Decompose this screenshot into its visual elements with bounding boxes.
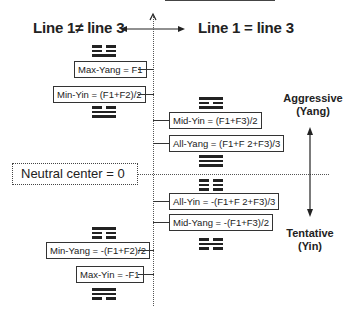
- central-axis: [153, 16, 154, 306]
- trigram-min-yin-icon: [92, 106, 116, 120]
- trigram-max-yang-icon: [92, 45, 116, 59]
- yang-text: (Yang): [283, 105, 343, 118]
- tentative-label: Tentative (Yin): [280, 227, 340, 253]
- max-yin-box: Max-Yin = -F1: [76, 266, 144, 283]
- mid-yang-box: Mid-Yang = -(F1+F3)/2: [169, 214, 273, 231]
- vertical-double-arrow-icon: [305, 127, 315, 217]
- min-yang-box: Min-Yang = -(F1+F2)/2: [46, 242, 150, 259]
- aggressive-text: Aggressive: [283, 92, 343, 105]
- yin-text: (Yin): [280, 240, 340, 253]
- max-yin-connector: [138, 274, 154, 275]
- neutral-center-box: Neutral center = 0: [12, 163, 138, 185]
- mid-yin-connector: [153, 120, 169, 121]
- mid-yang-connector: [153, 222, 169, 223]
- all-yin-connector: [153, 201, 169, 202]
- all-yin-box: All-Yin = -(F1+F 2+F3)/3: [169, 193, 279, 210]
- heading-line1-equal-line3: Line 1 = line 3: [198, 19, 294, 36]
- aggressive-label: Aggressive (Yang): [283, 92, 343, 118]
- trigram-mid-yin-icon: [199, 97, 223, 111]
- heading-line1-not-equal-line3: Line 1≠ line 3: [33, 19, 124, 36]
- min-yin-connector: [138, 94, 154, 95]
- trigram-mid-yang-icon: [199, 238, 223, 252]
- cropped-top-box: [165, 0, 275, 1]
- min-yin-box: Min-Yin = (F1+F2)/2: [53, 86, 146, 103]
- tentative-text: Tentative: [280, 227, 340, 240]
- trigram-all-yin-icon: [199, 179, 223, 193]
- all-yang-box: All-Yang = (F1+F 2+F3)/3: [169, 135, 284, 152]
- neutral-line: [137, 174, 329, 175]
- trigram-min-yang-icon: [92, 227, 116, 241]
- mid-yin-box: Mid-Yin = (F1+F3)/2: [169, 112, 262, 129]
- trigram-max-yin-icon: [92, 288, 116, 302]
- min-yang-connector: [138, 250, 154, 251]
- all-yang-connector: [153, 143, 169, 144]
- max-yang-connector: [138, 69, 154, 70]
- max-yang-box: Max-Yang = F1: [74, 61, 147, 78]
- trigram-all-yang-icon: [199, 155, 223, 169]
